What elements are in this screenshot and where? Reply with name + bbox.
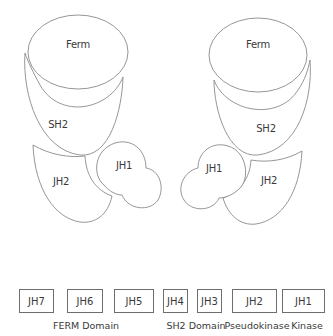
caption-ferm-domain: FERM Domain bbox=[53, 320, 119, 331]
domain-box-jh5: JH5 bbox=[114, 289, 154, 313]
right-jh2-label: JH2 bbox=[261, 175, 277, 186]
domain-box-jh7: JH7 bbox=[19, 289, 54, 313]
caption-sh2-domain: SH2 Domain bbox=[166, 320, 225, 331]
left-jh2-label: JH2 bbox=[53, 176, 69, 187]
caption-pseudokinase: Pseudokinase bbox=[225, 320, 290, 331]
left-ferm-shape bbox=[28, 15, 128, 89]
domain-box-jh2: JH2 bbox=[232, 289, 277, 313]
right-sh2-label: SH2 bbox=[256, 123, 276, 134]
caption-kinase: Kinase bbox=[291, 320, 323, 331]
left-sh2-label: SH2 bbox=[48, 119, 68, 130]
domain-diagram-shapes bbox=[0, 0, 333, 336]
left-structure bbox=[25, 15, 161, 222]
right-jh1-label: JH1 bbox=[206, 163, 222, 174]
right-ferm-label: Ferm bbox=[246, 39, 270, 50]
domain-box-jh1: JH1 bbox=[282, 289, 325, 313]
domain-box-jh4: JH4 bbox=[163, 289, 188, 313]
right-ferm-shape bbox=[209, 18, 307, 92]
domain-box-jh6: JH6 bbox=[67, 289, 103, 313]
left-jh1-label: JH1 bbox=[116, 160, 132, 171]
domain-box-jh3: JH3 bbox=[197, 289, 222, 313]
left-ferm-label: Ferm bbox=[66, 39, 90, 50]
